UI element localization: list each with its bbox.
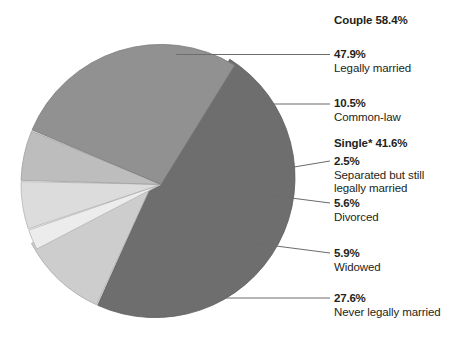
- callout-desc-divorced: Divorced: [334, 211, 379, 225]
- callout-pct-widowed: 5.9%: [334, 247, 359, 259]
- callout-pct-common-law: 10.5%: [334, 97, 366, 109]
- callout-label-column: Couple 58.4% 47.9% Legally married 10.5%…: [0, 0, 461, 342]
- callout-pct-divorced: 5.6%: [334, 197, 359, 209]
- callout-desc-never-married: Never legally married: [334, 306, 441, 320]
- callout-desc-common-law: Common-law: [334, 111, 401, 125]
- callout-desc-separated-line1: Separated but still: [334, 169, 424, 183]
- callout-pct-legally-married: 47.9%: [334, 48, 366, 60]
- group-heading-couple: Couple 58.4%: [334, 14, 408, 26]
- callout-pct-never-married: 27.6%: [334, 292, 366, 304]
- callout-desc-legally-married: Legally married: [334, 62, 411, 76]
- callout-desc-widowed: Widowed: [334, 261, 381, 275]
- pie-chart-figure: Couple 58.4% 47.9% Legally married 10.5%…: [0, 0, 461, 342]
- callout-pct-separated: 2.5%: [334, 155, 359, 167]
- group-heading-single: Single* 41.6%: [334, 137, 407, 149]
- callout-desc-separated-line2: legally married: [334, 182, 407, 196]
